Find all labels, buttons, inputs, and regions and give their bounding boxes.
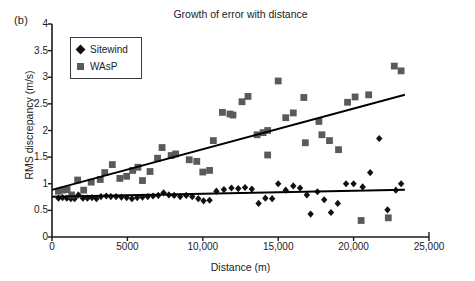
- data-point-wasp: [139, 177, 146, 184]
- data-point-sitewind: [335, 200, 341, 207]
- data-point-sitewind: [359, 183, 365, 190]
- data-point-wasp: [344, 99, 351, 106]
- data-point-wasp: [193, 158, 200, 165]
- data-point-sitewind: [195, 195, 201, 202]
- data-point-sitewind: [235, 185, 241, 192]
- data-point-sitewind: [275, 180, 281, 187]
- data-point-sitewind: [150, 192, 156, 199]
- data-point-wasp: [290, 110, 297, 117]
- figure-container: (b) Growth of error with distance RMS di…: [0, 0, 475, 281]
- data-point-wasp: [264, 152, 271, 159]
- data-point-sitewind: [242, 184, 248, 191]
- data-point-sitewind: [376, 135, 382, 142]
- data-point-wasp: [398, 67, 405, 74]
- diamond-marker-icon: [76, 45, 86, 55]
- data-point-sitewind: [171, 192, 177, 199]
- data-point-wasp: [319, 131, 326, 138]
- data-point-sitewind: [328, 209, 334, 216]
- data-point-sitewind: [221, 186, 227, 193]
- data-point-wasp: [352, 94, 359, 101]
- data-point-sitewind: [255, 200, 261, 207]
- data-point-wasp: [147, 168, 154, 175]
- data-point-sitewind: [367, 169, 373, 176]
- data-point-wasp: [116, 175, 123, 182]
- data-point-sitewind: [206, 197, 212, 204]
- data-point-wasp: [326, 137, 333, 144]
- legend: SitewindWAsP: [70, 37, 142, 79]
- data-point-wasp: [385, 214, 392, 221]
- data-point-wasp: [275, 78, 282, 85]
- data-point-sitewind: [200, 197, 206, 204]
- data-point-sitewind: [398, 180, 404, 187]
- data-point-wasp: [245, 93, 252, 100]
- square-marker-icon: [77, 63, 84, 70]
- data-point-sitewind: [269, 195, 275, 202]
- data-point-wasp: [365, 91, 372, 98]
- data-point-sitewind: [350, 180, 356, 187]
- trend-line-sitewind: [52, 190, 405, 197]
- data-point-sitewind: [262, 195, 268, 202]
- data-point-wasp: [300, 94, 307, 101]
- data-point-sitewind: [249, 185, 255, 192]
- data-point-sitewind: [307, 211, 313, 218]
- data-point-wasp: [282, 114, 289, 121]
- data-point-sitewind: [290, 182, 296, 189]
- data-point-wasp: [358, 217, 365, 224]
- legend-label: WAsP: [90, 61, 117, 72]
- data-point-wasp: [186, 156, 193, 163]
- trend-line-wasp: [52, 95, 405, 190]
- data-point-sitewind: [321, 196, 327, 203]
- data-point-sitewind: [384, 206, 390, 213]
- data-point-wasp: [239, 98, 246, 105]
- data-point-wasp: [109, 161, 116, 168]
- data-point-wasp: [159, 144, 166, 151]
- data-point-wasp: [123, 173, 130, 180]
- data-point-wasp: [210, 137, 217, 144]
- data-point-sitewind: [183, 192, 189, 199]
- data-point-wasp: [206, 167, 213, 174]
- data-point-wasp: [230, 112, 237, 119]
- trend-lines-group: [52, 95, 405, 197]
- data-point-sitewind: [228, 184, 234, 191]
- data-point-wasp: [219, 109, 226, 116]
- data-point-wasp: [199, 169, 206, 176]
- data-point-sitewind: [297, 184, 303, 191]
- data-point-wasp: [391, 63, 398, 70]
- data-point-wasp: [335, 146, 342, 153]
- data-point-wasp: [80, 187, 87, 194]
- data-marks-group: [55, 63, 404, 224]
- legend-label: Sitewind: [90, 44, 128, 55]
- legend-item-wasp: WAsP: [71, 58, 141, 75]
- legend-item-sitewind: Sitewind: [71, 41, 141, 58]
- data-point-wasp: [302, 139, 309, 146]
- data-point-sitewind: [343, 180, 349, 187]
